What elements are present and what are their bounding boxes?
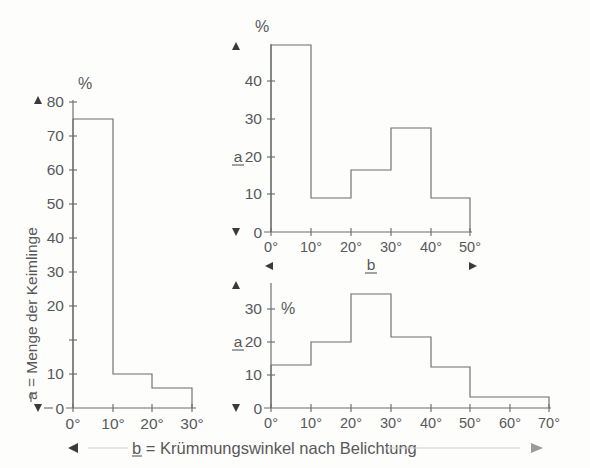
left-xtick-20: 20° [140, 415, 163, 432]
br-ytick-30: 30 [245, 300, 263, 317]
br-percent-unit: % [281, 300, 295, 317]
caption-left-arrow [68, 443, 78, 453]
bottom-caption: b = Krümmungswinkel nach Belichtung [132, 439, 417, 457]
left-xtick-10: 10° [101, 415, 124, 432]
tr-ytick-30: 30 [245, 110, 263, 127]
br-xtick-30: 30° [380, 415, 402, 431]
left-ytick-30: 30 [47, 263, 65, 280]
tr-percent-unit: % [255, 18, 269, 35]
left-ytick-80: 80 [47, 93, 65, 110]
tr-y-axis-up-arrow [232, 42, 240, 50]
left-ytick-40: 40 [47, 229, 65, 246]
bottom-caption-group: b = Krümmungswinkel nach Belichtung [68, 439, 543, 457]
left-ytick-20: 20 [47, 297, 65, 314]
tr-xtick-20: 20° [340, 239, 362, 255]
br-y-axis-up-arrow [232, 281, 240, 289]
tr-b-left-arrow [265, 262, 273, 270]
tr-y-axis-down-arrow [232, 228, 240, 236]
left-percent-unit: % [78, 75, 92, 92]
chart-left: 80 70 60 50 40 30 20 10 0 % 0° 10° 20° 3… [23, 75, 204, 432]
br-xtick-70: 70° [538, 415, 560, 431]
tr-b-symbol: b [367, 256, 376, 273]
br-xtick-60: 60° [499, 415, 521, 431]
chart-top-right: 40 30 20 10 0 % a 0° 10° 20° 30° 40° 50°… [232, 18, 481, 273]
tr-ytick-40: 40 [245, 72, 263, 89]
left-bars-outline [73, 119, 192, 408]
tr-xtick-50: 50° [459, 239, 481, 255]
br-ytick-20: 20 [245, 333, 263, 350]
tr-xtick-40: 40° [420, 239, 442, 255]
br-xtick-0: 0° [264, 415, 278, 431]
tr-b-right-arrow [469, 262, 477, 270]
br-xtick-10: 10° [300, 415, 322, 431]
br-xtick-50: 50° [459, 415, 481, 431]
br-ytick-0: 0 [253, 400, 262, 417]
br-xtick-20: 20° [340, 415, 362, 431]
tr-xtick-10: 10° [300, 239, 322, 255]
tr-xtick-0: 0° [264, 239, 278, 255]
left-xtick-30: 30° [180, 415, 203, 432]
br-ytick-10: 10 [245, 366, 263, 383]
br-xtick-40: 40° [420, 415, 442, 431]
figure-canvas: 80 70 60 50 40 30 20 10 0 % 0° 10° 20° 3… [0, 0, 590, 468]
chart-bottom-right: 30 20 10 0 % a 0° 10° 20° 30° 40° 50° 60… [232, 281, 560, 431]
tr-ytick-10: 10 [245, 185, 263, 202]
left-y-axis-title: a = Menge der Keimlinge [23, 227, 40, 400]
left-ytick-60: 60 [47, 161, 65, 178]
left-y-axis-up-arrow [34, 96, 42, 104]
br-a-symbol: a [234, 333, 243, 350]
histogram-figure: 80 70 60 50 40 30 20 10 0 % 0° 10° 20° 3… [0, 0, 590, 468]
tr-ytick-0: 0 [253, 224, 262, 241]
caption-right-arrow [531, 443, 543, 453]
left-ytick-10: 10 [47, 365, 65, 382]
left-ytick-0: 0 [55, 400, 64, 417]
left-y-axis-down-arrow [34, 404, 42, 412]
left-ytick-50: 50 [47, 195, 65, 212]
tr-bars-outline [271, 45, 470, 232]
br-bars-outline [271, 294, 549, 408]
tr-ytick-20: 20 [245, 148, 263, 165]
tr-xtick-30: 30° [380, 239, 402, 255]
left-ytick-70: 70 [47, 127, 65, 144]
tr-a-symbol: a [234, 148, 243, 165]
br-y-axis-down-arrow [232, 404, 240, 412]
left-xtick-0: 0° [66, 415, 81, 432]
